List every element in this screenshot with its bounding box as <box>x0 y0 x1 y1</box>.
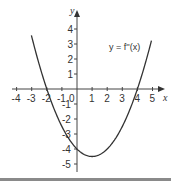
y-tick-label: 1 <box>68 69 74 80</box>
x-tick-label: 3 <box>119 93 125 104</box>
curve-label: y = f''(x) <box>109 42 140 52</box>
chart: -4-3-2-10123454321-1-2-3-4-5 x y y = f''… <box>0 0 178 183</box>
y-axis-label: y <box>69 5 75 16</box>
axes: -4-3-2-10123454321-1-2-3-4-5 <box>12 10 165 172</box>
x-axis-label: x <box>162 92 168 103</box>
x-tick-label: 5 <box>150 93 156 104</box>
x-tick-label: -4 <box>12 93 21 104</box>
y-tick-label: -1 <box>62 99 71 110</box>
bottom-divider <box>0 178 171 181</box>
x-tick-label: 1 <box>89 93 95 104</box>
y-tick-label: -4 <box>62 144 71 155</box>
y-tick-label: 3 <box>68 39 74 50</box>
y-tick-label: 4 <box>68 24 74 35</box>
y-tick-label: 2 <box>68 54 74 65</box>
x-tick-label: -3 <box>27 93 36 104</box>
x-tick-label: 2 <box>104 93 110 104</box>
y-tick-label: -5 <box>62 159 71 170</box>
y-tick-label: -2 <box>62 114 71 125</box>
